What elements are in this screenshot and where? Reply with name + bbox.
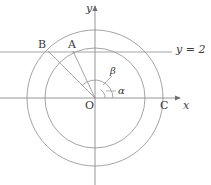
y-axis-label: y [86, 3, 92, 14]
ray-ob [48, 51, 95, 98]
origin-label: O [85, 100, 94, 111]
point-b-label: B [38, 39, 46, 50]
x-axis-label: x [183, 100, 189, 111]
alpha-angle-label: α [118, 86, 125, 96]
point-c-label: C [160, 100, 168, 111]
point-a-label: A [68, 39, 76, 50]
ray-oa [73, 51, 95, 98]
y-equals-2-label: y = 2 [176, 44, 205, 55]
alpha-angle-arc [101, 90, 105, 98]
figure-canvas [0, 0, 211, 185]
beta-leader-line [103, 76, 112, 85]
beta-angle-arc [82, 80, 113, 98]
beta-angle-label: β [110, 66, 116, 76]
geometry-figure: y x O A B C α β y = 2 [0, 0, 211, 185]
